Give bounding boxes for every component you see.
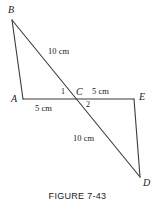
vertex-label-B: B — [8, 5, 14, 15]
angle-label-2: 2 — [86, 101, 90, 109]
vertex-label-A: A — [11, 94, 17, 104]
figure-caption: FIGURE 7-43 — [0, 191, 155, 201]
measure-label-bc: 10 cm — [48, 47, 69, 56]
measure-label-cd: 10 cm — [73, 134, 94, 143]
angle-label-1: 1 — [61, 88, 65, 96]
segment-ED — [134, 99, 140, 177]
vertex-label-D: D — [143, 178, 150, 188]
vertex-label-C: C — [76, 87, 83, 97]
geometry-diagram — [0, 0, 155, 211]
vertex-label-E: E — [139, 92, 145, 102]
figure-7-43: B A C E D 1 2 10 cm 5 cm 5 cm 10 cm FIGU… — [0, 0, 155, 211]
measure-label-ac: 5 cm — [35, 104, 52, 113]
measure-label-ce: 5 cm — [92, 87, 109, 96]
